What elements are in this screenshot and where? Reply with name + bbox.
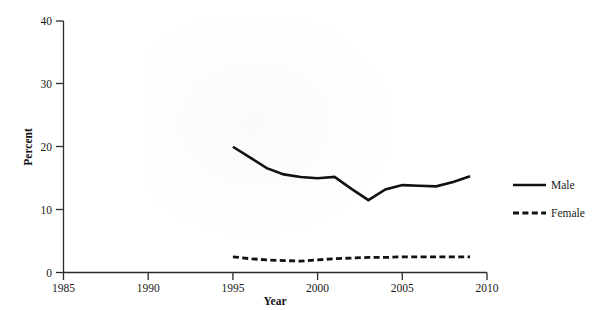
series-line-female [233,257,470,261]
y-tick-label-10: 10 [41,204,53,216]
x-tick-label-2000: 2000 [306,282,329,294]
legend-label-female: Female [551,207,585,219]
y-tick-label-0: 0 [46,267,52,279]
x-tick-label-1990: 1990 [137,282,160,294]
y-tick-label-30: 30 [41,78,53,90]
y-tick-label-40: 40 [41,15,53,27]
y-axis-title: Percent [22,128,34,166]
legend-label-male: Male [551,179,575,191]
y-tick-label-20: 20 [41,141,53,153]
chart-canvas: 0 10 20 30 40 1985 1990 1995 2000 2005 2… [0,0,605,310]
x-tick-label-2010: 2010 [476,282,499,294]
line-chart-figure: 0 10 20 30 40 1985 1990 1995 2000 2005 2… [0,0,605,310]
x-tick-label-2005: 2005 [391,282,414,294]
series-line-male [233,147,470,200]
legend: Male Female [513,179,585,219]
x-tick-label-1985: 1985 [52,282,75,294]
x-axis-title: Year [264,295,287,307]
x-tick-label-1995: 1995 [221,282,244,294]
